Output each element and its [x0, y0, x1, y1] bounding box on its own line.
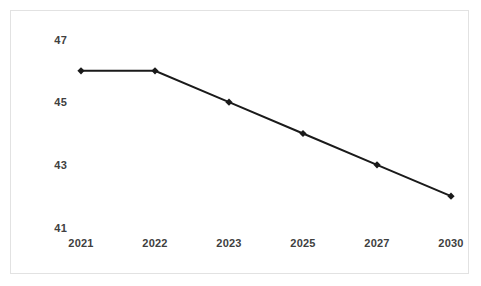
- x-axis-tick-label: 2023: [216, 237, 241, 249]
- x-axis-tick-label: 2022: [142, 237, 167, 249]
- y-axis-tick-label: 47: [41, 34, 67, 46]
- x-axis-tick-label: 2030: [438, 237, 463, 249]
- y-axis-tick-label: 45: [41, 96, 67, 108]
- x-axis-tick-label: 2027: [364, 237, 389, 249]
- x-axis-tick-label: 2025: [290, 237, 315, 249]
- data-point-marker[interactable]: [225, 99, 232, 106]
- x-axis-tick-label: 2021: [68, 237, 93, 249]
- data-point-marker[interactable]: [299, 130, 306, 137]
- line-chart: 41434547 202120222023202520272030: [11, 11, 470, 275]
- chart-card: 41434547 202120222023202520272030: [10, 10, 469, 274]
- chart-plot-svg: [11, 11, 470, 275]
- series-group: [77, 67, 454, 200]
- data-point-marker[interactable]: [447, 193, 454, 200]
- data-point-marker[interactable]: [151, 67, 158, 74]
- y-axis-tick-label: 41: [41, 222, 67, 234]
- data-point-marker[interactable]: [373, 161, 380, 168]
- y-axis-tick-label: 43: [41, 159, 67, 171]
- data-point-marker[interactable]: [77, 67, 84, 74]
- series-line: [81, 71, 451, 196]
